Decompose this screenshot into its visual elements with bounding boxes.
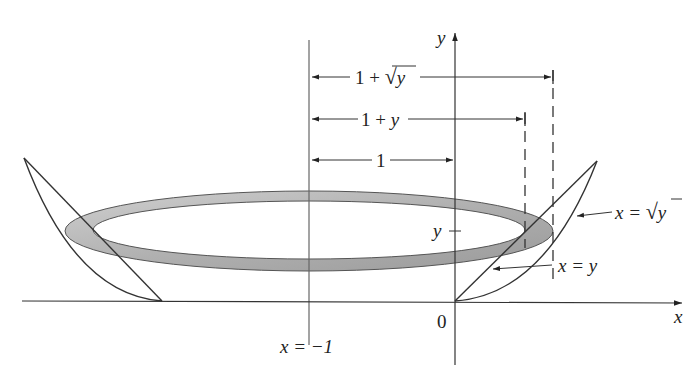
inner-radius-var: y bbox=[389, 109, 400, 130]
origin-label: 0 bbox=[437, 311, 447, 332]
sqrt-curve-pointer bbox=[577, 212, 612, 216]
svg-text:x = √y: x = √y bbox=[614, 199, 667, 224]
x-axis-label: x bbox=[673, 306, 683, 327]
line-curve-lhs: x = bbox=[557, 255, 589, 276]
sqrt-curve-lhs: x = bbox=[614, 202, 646, 223]
x-axis bbox=[22, 301, 682, 303]
unit-label: 1 bbox=[376, 150, 386, 171]
svg-text:x = y: x = y bbox=[557, 255, 598, 276]
right-region-curves bbox=[455, 161, 597, 301]
y-axis-label: y bbox=[435, 27, 446, 48]
svg-text:1 + y: 1 + y bbox=[361, 109, 400, 130]
washer-diagram: 1 + √y 1 + y 1 y y x 0 x = −1 x = √y x =… bbox=[0, 0, 700, 376]
line-curve-pointer bbox=[493, 265, 552, 269]
line-curve-right bbox=[455, 161, 597, 301]
rotation-axis-label: x = −1 bbox=[279, 336, 333, 357]
outer-radius-prefix: 1 + bbox=[355, 67, 385, 88]
y-tick-label: y bbox=[431, 220, 442, 241]
inner-radius-prefix: 1 + bbox=[361, 109, 391, 130]
left-region-curves bbox=[24, 158, 162, 301]
line-curve-left bbox=[24, 158, 162, 301]
sqrt-curve-var: y bbox=[656, 202, 667, 223]
line-curve-var: y bbox=[587, 255, 598, 276]
outer-radius-var: y bbox=[395, 67, 406, 88]
svg-text:1 + √y: 1 + √y bbox=[355, 64, 406, 89]
